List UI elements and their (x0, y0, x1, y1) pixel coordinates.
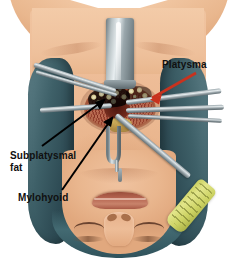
label-subplatysmal-fat-line2: fat (10, 162, 23, 173)
medical-illustration-figure: Platysma Subplatysmal fat Mylohyoid (0, 0, 236, 269)
label-subplatysmal-fat-line1: Subplatysmal (10, 150, 76, 161)
label-platysma: Platysma (162, 59, 207, 71)
arrow-platysma (150, 73, 196, 105)
annotation-arrows (0, 0, 236, 269)
label-subplatysmal-fat: Subplatysmal fat (10, 150, 88, 173)
label-mylohyoid: Mylohyoid (18, 192, 68, 204)
